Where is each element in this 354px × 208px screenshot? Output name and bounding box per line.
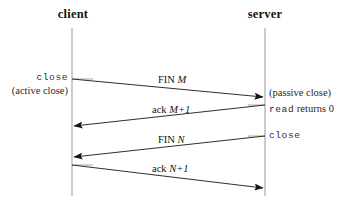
message-fin-n-italic: N (178, 134, 185, 145)
message-label-ack-m-plus-1: ack M+1 (152, 104, 190, 115)
server-event-read-result: returns 0 (294, 103, 334, 114)
message-ack-m-italic: M+1 (169, 104, 190, 115)
message-ack-m-roman: ack (152, 104, 169, 115)
actor-title-server: server (236, 8, 294, 21)
message-ack-n-roman: ack (152, 163, 169, 174)
tcp-termination-diagram: client server close (active close) (pass… (0, 0, 354, 208)
client-event-active-close: (active close) (0, 85, 68, 96)
actor-title-client: client (44, 8, 102, 21)
client-event-close: close (0, 73, 68, 83)
message-fin-m-italic: M (178, 74, 187, 85)
message-label-ack-n-plus-1: ack N+1 (152, 163, 189, 174)
server-event-read-keyword: read (269, 104, 294, 115)
message-label-fin-n: FIN N (158, 134, 185, 145)
message-fin-m-roman: FIN (158, 74, 178, 85)
server-event-passive-close: (passive close) (269, 87, 331, 98)
message-ack-n-italic: N+1 (169, 163, 188, 174)
server-event-read-returns: read returns 0 (269, 99, 334, 116)
message-label-fin-m: FIN M (158, 74, 186, 85)
message-fin-n-roman: FIN (158, 134, 178, 145)
server-event-close: close (269, 131, 301, 141)
